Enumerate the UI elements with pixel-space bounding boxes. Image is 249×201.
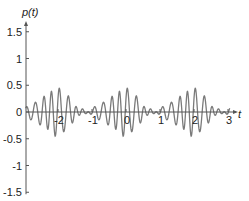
x-axis-title: t [238, 108, 242, 120]
y-tick-label: -1.5 [3, 186, 22, 198]
y-axis-arrow-icon [24, 21, 28, 26]
x-tick-label: 1 [158, 114, 164, 126]
x-tick-label: 3 [226, 114, 232, 126]
y-tick-label: -0.5 [3, 133, 22, 145]
x-tick-label: -1 [88, 114, 98, 126]
y-axis-title: p(t) [21, 6, 39, 18]
y-tick-label: 0.5 [7, 79, 22, 91]
y-tick-label: -1 [12, 160, 22, 172]
y-tick-label: 0 [16, 106, 22, 118]
y-tick-label: 1.5 [7, 26, 22, 38]
y-tick-label: 1 [16, 53, 22, 65]
x-tick-label: -2 [54, 114, 64, 126]
x-tick-label: 0 [124, 114, 130, 126]
x-tick-label: 2 [192, 114, 198, 126]
signal-chart: -1.5-1-0.500.511.5-2-10123 p(t) t [0, 0, 249, 201]
